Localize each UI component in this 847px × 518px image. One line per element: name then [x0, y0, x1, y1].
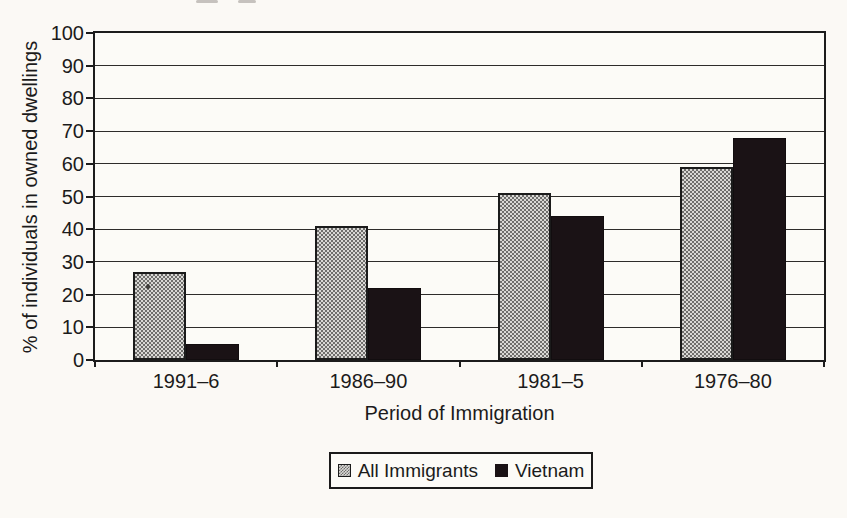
bar-all-immigrants-1986-90	[315, 226, 368, 360]
gridline-70	[95, 131, 824, 132]
bar-all-immigrants-1991-6	[133, 272, 186, 360]
y-tick-0	[86, 359, 93, 361]
scan-artifact-cropped-text	[196, 0, 218, 3]
y-tick-50	[86, 196, 93, 198]
legend-swatch-all-immigrants-icon	[338, 464, 351, 477]
legend-label-vietnam: Vietnam	[515, 460, 584, 482]
y-tick-60	[86, 163, 93, 165]
x-tick-2	[459, 362, 461, 367]
x-category-label-2: 1981–5	[460, 369, 642, 393]
y-tick-80	[86, 97, 93, 99]
x-axis-title: Period of Immigration	[93, 402, 826, 425]
x-tick-1	[276, 362, 278, 367]
legend-item-vietnam: Vietnam	[495, 460, 584, 482]
x-tick-4	[823, 362, 825, 367]
scan-artifact-cropped-text	[238, 0, 256, 3]
y-tick-20	[86, 294, 93, 296]
y-axis-title: % of individuals in owned dwellings	[17, 27, 43, 367]
legend-item-all-immigrants: All Immigrants	[338, 460, 478, 482]
bar-vietnam-1991-6	[186, 344, 239, 360]
x-tick-0	[94, 362, 96, 367]
y-tick-40	[86, 228, 93, 230]
bar-all-immigrants-1981-5	[498, 193, 551, 360]
y-tick-100	[86, 32, 93, 34]
y-tick-10	[86, 326, 93, 328]
x-category-label-0: 1991–6	[95, 369, 277, 393]
gridline-80	[95, 98, 824, 99]
gridline-60	[95, 163, 824, 164]
bar-vietnam-1986-90	[368, 288, 421, 360]
legend-swatch-vietnam-icon	[495, 464, 508, 477]
bar-vietnam-1981-5	[551, 216, 604, 360]
scan-speckle	[146, 284, 150, 289]
legend: All Immigrants Vietnam	[329, 452, 593, 489]
y-tick-90	[86, 65, 93, 67]
y-tick-70	[86, 130, 93, 132]
gridline-90	[95, 65, 824, 66]
legend-label-all-immigrants: All Immigrants	[358, 460, 478, 482]
x-category-label-1: 1986–90	[277, 369, 459, 393]
x-tick-3	[641, 362, 643, 367]
bar-all-immigrants-1976-80	[680, 167, 733, 360]
x-category-label-3: 1976–80	[642, 369, 824, 393]
scanned-bar-chart-page: 01020304050607080901001991–61986–901981–…	[0, 0, 847, 518]
bar-vietnam-1976-80	[733, 138, 786, 360]
y-tick-30	[86, 261, 93, 263]
